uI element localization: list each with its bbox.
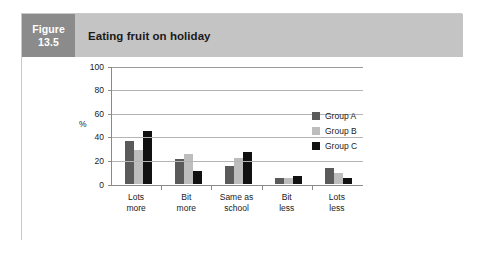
figure-title: Eating fruit on holiday xyxy=(88,30,211,42)
gridline xyxy=(112,90,363,91)
y-axis-tick-label: 100 xyxy=(90,62,104,72)
x-axis-label: Bitmore xyxy=(177,192,196,213)
legend-label: Group A xyxy=(325,111,356,121)
x-axis-label-line: less xyxy=(279,203,294,214)
x-axis-label-line: Same as xyxy=(220,192,254,203)
x-axis-label-line: more xyxy=(126,203,145,214)
chart-legend: Group AGroup BGroup C xyxy=(312,111,357,151)
y-axis-tick-label: 0 xyxy=(99,180,104,190)
legend-label: Group B xyxy=(325,126,357,136)
figure-card: Figure 13.5 Eating fruit on holiday % 02… xyxy=(21,13,462,240)
x-axis-label: Same asschool xyxy=(220,192,254,213)
x-axis-label-line: more xyxy=(177,203,196,214)
bar xyxy=(334,173,343,184)
x-axis-label: Lotsless xyxy=(329,192,345,213)
y-axis-tick-label: 20 xyxy=(95,156,104,166)
bar xyxy=(175,159,184,184)
bar xyxy=(293,176,302,184)
bar xyxy=(275,178,284,184)
bar xyxy=(193,171,202,184)
gridline xyxy=(112,161,363,162)
bar xyxy=(125,141,134,184)
bar xyxy=(184,154,193,184)
x-axis-tick xyxy=(262,186,263,190)
legend-item: Group A xyxy=(312,111,357,121)
legend-label: Group C xyxy=(325,141,357,151)
legend-swatch-icon xyxy=(312,112,320,120)
x-axis-tick xyxy=(161,186,162,190)
x-axis-label-line: Bit xyxy=(177,192,196,203)
bar xyxy=(243,152,252,184)
bar xyxy=(143,131,152,184)
y-axis-tick-label: 80 xyxy=(95,85,104,95)
x-axis-label: Lotsmore xyxy=(126,192,145,213)
bar-group xyxy=(213,67,263,184)
legend-swatch-icon xyxy=(312,142,320,150)
y-axis-tick xyxy=(108,90,112,91)
bar xyxy=(325,168,334,184)
x-axis-label-line: less xyxy=(329,203,345,214)
bar-group xyxy=(113,67,163,184)
x-axis-tick xyxy=(211,186,212,190)
bar xyxy=(225,166,234,184)
bar xyxy=(234,158,243,184)
x-axis-label-line: school xyxy=(220,203,254,214)
chart-body: % 020406080100 LotsmoreBitmoreSame assch… xyxy=(22,57,463,241)
x-axis-label-line: Lots xyxy=(329,192,345,203)
x-axis-label-line: Lots xyxy=(126,192,145,203)
y-axis-title: % xyxy=(79,119,87,129)
figure-number-value: 13.5 xyxy=(38,36,59,49)
y-axis-tick xyxy=(108,185,112,186)
legend-item: Group B xyxy=(312,126,357,136)
y-axis-tick-label: 60 xyxy=(95,109,104,119)
gridline xyxy=(112,67,363,68)
y-axis-tick-label: 40 xyxy=(95,132,104,142)
x-axis-label-line: Bit xyxy=(279,192,294,203)
legend-swatch-icon xyxy=(312,127,320,135)
legend-item: Group C xyxy=(312,141,357,151)
x-axis-tick xyxy=(312,186,313,190)
bar-group xyxy=(264,67,314,184)
bar xyxy=(343,178,352,184)
y-axis-tick xyxy=(108,114,112,115)
x-axis-label: Bitless xyxy=(279,192,294,213)
screenshot-root: Figure 13.5 Eating fruit on holiday % 02… xyxy=(0,0,482,253)
y-axis-tick xyxy=(108,67,112,68)
bar-group xyxy=(163,67,213,184)
figure-title-bar: Eating fruit on holiday xyxy=(75,14,463,57)
y-axis-tick xyxy=(108,137,112,138)
figure-number-box: Figure 13.5 xyxy=(22,14,75,57)
y-axis-tick xyxy=(108,161,112,162)
figure-header: Figure 13.5 Eating fruit on holiday xyxy=(22,14,463,57)
bar xyxy=(284,178,293,184)
bar xyxy=(134,150,143,184)
figure-number-word: Figure xyxy=(32,23,65,36)
